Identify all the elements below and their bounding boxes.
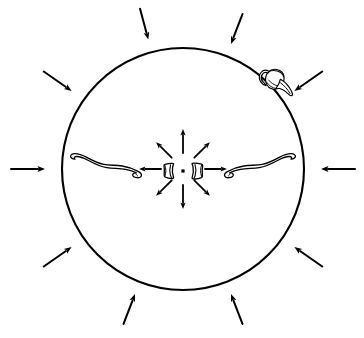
sherd-left	[164, 163, 174, 178]
figure-root	[0, 0, 364, 338]
figure-background	[0, 0, 364, 338]
center-point-marker	[181, 169, 184, 172]
dispersal-diagram	[0, 0, 364, 338]
center-marker-group	[181, 169, 184, 172]
sherd-right	[192, 163, 203, 179]
